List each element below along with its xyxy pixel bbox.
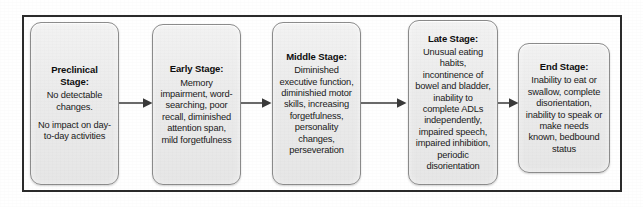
stage-content-middle: Middle Stage: Diminished executive funct… bbox=[278, 51, 355, 157]
dementia-stages-flowchart: Preclinical Stage: No detectable changes… bbox=[0, 0, 643, 207]
stage-content-late: Late Stage: Unusual eating habits, incon… bbox=[414, 33, 492, 173]
stage-box-middle: Middle Stage: Diminished executive funct… bbox=[272, 22, 361, 185]
stage-content-preclinical: Preclinical Stage: No detectable changes… bbox=[36, 64, 113, 143]
stage-title-middle: Middle Stage: bbox=[278, 51, 355, 63]
stage-body-end: Inability to eat or swallow, complete di… bbox=[524, 75, 604, 155]
stage-body-preclinical-2: No impact on day-to-day activities bbox=[36, 120, 113, 143]
arrow-middle-to-late bbox=[361, 97, 407, 109]
stage-content-early: Early Stage: Memory impairment, word-sea… bbox=[158, 63, 235, 146]
stage-body-late: Unusual eating habits, incontinence of b… bbox=[414, 47, 492, 172]
arrow-late-to-end bbox=[498, 97, 519, 109]
stage-box-late: Late Stage: Unusual eating habits, incon… bbox=[408, 20, 498, 185]
stage-box-early: Early Stage: Memory impairment, word-sea… bbox=[152, 24, 241, 185]
stage-title-early: Early Stage: bbox=[158, 63, 235, 75]
stage-title-preclinical: Preclinical Stage: bbox=[36, 64, 113, 87]
stage-title-end: End Stage: bbox=[524, 61, 604, 73]
stage-body-early: Memory impairment, word-searching, poor … bbox=[158, 78, 235, 146]
stage-body-middle: Diminished executive function, diminishi… bbox=[278, 65, 355, 156]
stage-content-end: End Stage: Inability to eat or swallow, … bbox=[524, 61, 604, 155]
stage-title-late: Late Stage: bbox=[414, 33, 492, 45]
arrow-early-to-middle bbox=[241, 97, 272, 109]
arrow-preclinical-to-early bbox=[119, 97, 153, 109]
stage-box-end: End Stage: Inability to eat or swallow, … bbox=[518, 43, 610, 173]
stage-body-preclinical-1: No detectable changes. bbox=[36, 90, 113, 113]
stage-box-preclinical: Preclinical Stage: No detectable changes… bbox=[30, 22, 119, 185]
